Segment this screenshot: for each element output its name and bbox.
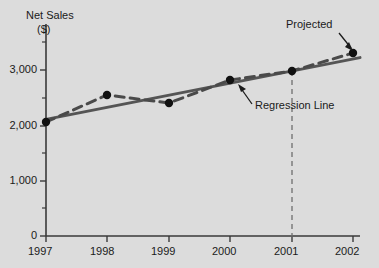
chart-subtitle-units: ($)	[37, 23, 50, 35]
regression-line-label: Regression Line	[255, 99, 335, 111]
x-tick-label-2002: 2002	[335, 245, 359, 257]
projected-label: Projected	[286, 18, 332, 30]
chart-background	[0, 0, 379, 268]
chart-title: Net Sales	[26, 9, 74, 21]
y-tick-label-3000: 3,000	[6, 63, 37, 75]
y-tick-label-2000: 2,000	[6, 119, 37, 131]
x-tick-label-1997: 1997	[28, 245, 52, 257]
y-tick-label-1000: 1,000	[6, 174, 37, 186]
chart-figure: Net Sales ($) 3,000 2,000 1,000 0 1997 1…	[0, 0, 379, 268]
x-tick-label-1999: 1999	[151, 245, 175, 257]
y-tick-label-0: 0	[6, 229, 37, 241]
x-tick-label-2000: 2000	[212, 245, 236, 257]
x-tick-label-1998: 1998	[90, 245, 114, 257]
data-point-1998	[103, 91, 111, 99]
data-point-1999	[165, 99, 173, 107]
data-point-2002	[349, 49, 357, 57]
data-point-2000	[226, 76, 234, 84]
net-sales-chart	[0, 0, 379, 268]
data-point-2001	[288, 67, 296, 75]
x-tick-label-2001: 2001	[274, 245, 298, 257]
data-point-1997	[42, 118, 50, 126]
